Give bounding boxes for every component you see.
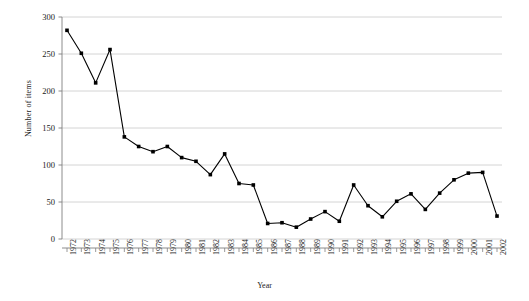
data-point-marker <box>481 171 485 175</box>
data-point-marker <box>180 156 184 160</box>
data-point-marker <box>395 199 399 203</box>
data-point-marker <box>338 219 342 223</box>
data-series-line <box>67 30 497 227</box>
line-chart: Number of items 050100150200250300 19721… <box>0 0 529 301</box>
data-point-marker <box>266 222 270 226</box>
data-point-marker <box>366 204 370 208</box>
data-point-marker <box>223 152 227 156</box>
data-point-marker <box>409 192 413 196</box>
axis-lines <box>62 17 502 248</box>
x-axis-tick-marks <box>67 248 497 252</box>
data-point-marker <box>424 208 428 212</box>
data-point-marker <box>280 221 284 225</box>
data-point-marker <box>381 215 385 219</box>
data-point-marker <box>438 191 442 195</box>
data-point-marker <box>237 182 241 186</box>
data-point-marker <box>80 51 84 55</box>
data-point-marker <box>252 183 256 187</box>
x-axis-title: Year <box>0 281 529 290</box>
data-point-marker <box>352 183 356 187</box>
data-point-markers <box>65 29 499 229</box>
data-point-marker <box>309 217 313 221</box>
data-point-marker <box>495 214 499 218</box>
data-point-marker <box>467 171 471 175</box>
data-point-marker <box>94 81 98 85</box>
data-point-marker <box>137 145 141 149</box>
data-point-marker <box>209 173 213 177</box>
data-point-marker <box>151 150 155 154</box>
gridlines <box>62 17 502 239</box>
data-point-marker <box>295 225 299 229</box>
plot-area <box>0 0 529 301</box>
data-point-marker <box>65 29 69 33</box>
y-axis-tick-marks <box>59 17 63 239</box>
data-point-marker <box>108 48 112 52</box>
data-point-marker <box>452 178 456 182</box>
data-point-marker <box>323 210 327 214</box>
data-point-marker <box>123 135 127 139</box>
data-point-marker <box>166 145 170 149</box>
data-point-marker <box>194 160 198 164</box>
